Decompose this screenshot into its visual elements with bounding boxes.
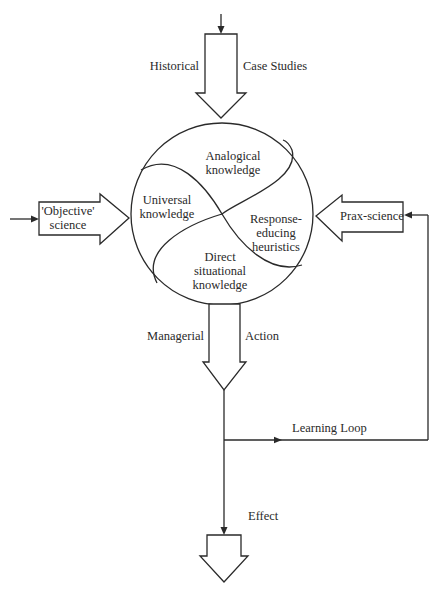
analogical-knowledge-line2: knowledge <box>206 163 261 177</box>
response-educing-heuristics-line3: heuristics <box>252 240 300 254</box>
universal-knowledge-line1: Universal <box>143 193 192 207</box>
direct-situational-knowledge-line2: situational <box>194 264 247 278</box>
case-studies-label: Case Studies <box>243 59 307 73</box>
learning-loop-label: Learning Loop <box>292 421 367 435</box>
response-educing-heuristics-line1: Response- <box>250 212 302 226</box>
managerial-action-arrow <box>203 304 246 390</box>
universal-knowledge-line2: knowledge <box>140 207 195 221</box>
direct-situational-knowledge-line3: knowledge <box>193 278 248 292</box>
arrowhead-icon <box>404 212 412 219</box>
action-label: Action <box>245 329 280 343</box>
analogical-knowledge-line1: Analogical <box>206 149 261 163</box>
arrowhead-icon <box>31 216 39 223</box>
arrowhead-icon <box>274 437 282 443</box>
knowledge-flow-diagram: Historical Case Studies 'Objective' scie… <box>0 0 439 590</box>
effect-label: Effect <box>248 509 279 523</box>
arrowhead-icon <box>221 527 228 535</box>
historical-label: Historical <box>150 59 200 73</box>
arrowhead-icon <box>218 26 225 34</box>
objective-science-label-line1: 'Objective' <box>41 204 94 218</box>
objective-science-label-line2: science <box>50 218 87 232</box>
prax-science-label: Prax-science <box>340 209 404 223</box>
response-educing-heuristics-line2: educing <box>256 226 296 240</box>
effect-arrow <box>200 527 248 582</box>
direct-situational-knowledge-line1: Direct <box>204 250 236 264</box>
managerial-label: Managerial <box>147 329 204 343</box>
top-input-arrow <box>196 14 246 118</box>
